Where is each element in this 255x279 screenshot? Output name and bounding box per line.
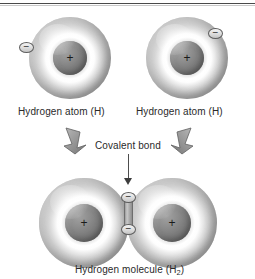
hydrogen-atom-left-sphere: + [29, 17, 111, 99]
hydrogen-atom-left-electron-charge: − [24, 42, 30, 52]
shared-electron-top-charge: − [126, 192, 132, 202]
top-divider-rule [0, 3, 255, 4]
bent-arrow-down-left-icon [168, 127, 194, 155]
bent-arrow-down-right-icon [63, 127, 89, 155]
hydrogen-atom-right-electron-charge: − [213, 28, 219, 38]
hydrogen-atom-left-label: Hydrogen atom (H) [18, 106, 105, 117]
hydrogen-molecule-caption-suffix: ) [181, 264, 184, 275]
hydrogen-atom-right-label: Hydrogen atom (H) [136, 106, 223, 117]
hydrogen-atom-left-nucleus: + [53, 41, 87, 75]
molecule-atom-left-nucleus: + [65, 204, 103, 242]
hydrogen-atom-right-electron: − [208, 28, 223, 39]
molecule-atom-right-sphere: + [127, 178, 217, 268]
covalent-bond-diagram: + − + − Hydrogen atom (H) Hydrogen atom … [0, 0, 255, 279]
top-divider-rule-soft [0, 5, 255, 6]
hydrogen-atom-right-nucleus: + [170, 41, 204, 75]
hydrogen-molecule-caption-text: Hydrogen molecule (H [75, 264, 177, 275]
hydrogen-atom-left-electron: − [19, 42, 34, 53]
molecule-atom-right-nucleus: + [153, 204, 191, 242]
hydrogen-molecule-caption: Hydrogen molecule (H2) [75, 264, 184, 275]
covalent-bond-label: Covalent bond [95, 140, 161, 151]
covalent-bond-pointer-line [128, 154, 129, 180]
covalent-bond-pointer-arrowhead [124, 178, 132, 185]
shared-electron-bottom-charge: − [126, 224, 132, 234]
shared-electron-bottom: − [121, 224, 136, 235]
molecule-atom-left-sphere: + [39, 178, 129, 268]
hydrogen-molecule-caption-subscript: 2 [177, 268, 181, 277]
shared-electron-top: − [121, 192, 136, 203]
